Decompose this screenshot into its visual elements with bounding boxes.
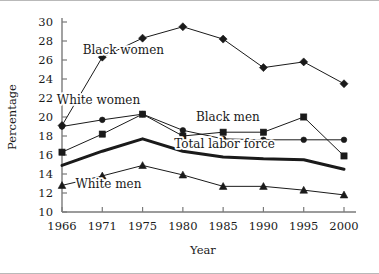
series-label-white-women: White womenWhite women [57, 93, 141, 107]
series-label-black-men: Black menBlack men [196, 110, 260, 124]
svg-text:White men: White men [76, 177, 142, 191]
y-axis-tick-label: 18 [38, 129, 53, 143]
series-label-total-labor-force: Total labor forceTotal labor force [174, 137, 275, 151]
x-axis-tick-label: 1975 [128, 219, 157, 233]
y-axis-tick-label: 28 [38, 34, 53, 48]
y-axis-tick-label: 12 [38, 186, 53, 200]
y-axis-tick-label: 30 [38, 15, 53, 29]
svg-text:White women: White women [57, 93, 141, 107]
x-axis-tick-label: 1990 [249, 219, 278, 233]
y-axis-tick-label: 24 [38, 72, 53, 86]
y-axis-tick-label: 26 [38, 53, 53, 67]
series-label-white-men: White menWhite men [76, 177, 142, 191]
x-axis-tick-label: 1971 [88, 219, 117, 233]
y-axis-title: Percentage [5, 84, 19, 150]
chart-figure: 1012141618202224262830196619711975198019… [0, 0, 379, 274]
svg-text:Black women: Black women [83, 43, 165, 57]
y-axis-tick-label: 22 [38, 91, 53, 105]
series-label-black-women: Black womenBlack women [83, 43, 165, 57]
x-axis-tick-label: 1980 [168, 219, 197, 233]
line-chart-canvas: 1012141618202224262830196619711975198019… [0, 0, 379, 274]
x-axis-tick-label: 1966 [47, 219, 76, 233]
svg-text:Black men: Black men [196, 110, 260, 124]
y-axis-tick-label: 14 [38, 167, 53, 181]
y-axis-tick-label: 20 [38, 110, 53, 124]
y-axis-tick-label: 10 [38, 205, 53, 219]
y-axis-tick-label: 16 [38, 148, 53, 162]
x-axis-tick-label: 1995 [289, 219, 318, 233]
x-axis-tick-label: 1985 [209, 219, 238, 233]
x-axis-tick-label: 2000 [329, 219, 358, 233]
svg-text:Total labor force: Total labor force [174, 137, 275, 151]
x-axis-title: Year [189, 243, 216, 257]
